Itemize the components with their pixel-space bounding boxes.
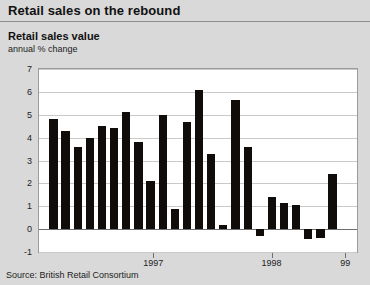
bar [304,229,312,239]
bar [159,115,167,229]
bar-series [39,69,357,252]
y-axis: -101234567 [4,68,34,253]
source-note: Source: British Retail Consortium [6,270,139,280]
bar [110,128,118,229]
bar [122,112,130,229]
bar [244,147,252,229]
bar [292,205,300,229]
bar [98,126,106,229]
bar [328,174,336,229]
chart-subtitle: annual % change [8,44,78,54]
bar [86,138,94,230]
bar [231,100,239,229]
chart-title: Retail sales value [8,30,100,42]
bar [171,209,179,230]
x-axis: 1997199899 [38,253,358,271]
y-tick-label: 1 [27,202,32,211]
bar [195,90,203,230]
bar [61,131,69,229]
bar [74,147,82,229]
bar [207,154,215,229]
title-divider [0,21,370,22]
y-tick-label: 7 [27,65,32,74]
x-tick-label: 1997 [143,258,163,268]
plot-area [38,68,358,253]
y-tick-label: 6 [27,87,32,96]
bar [49,119,57,229]
x-tick-label: 1998 [262,258,282,268]
bar [183,122,191,230]
y-tick-label: 2 [27,179,32,188]
x-tick-label: 99 [340,258,350,268]
y-tick-label: 4 [27,133,32,142]
y-tick-label: -1 [24,248,32,257]
bar [268,197,276,229]
y-tick-label: 0 [27,225,32,234]
bar [256,229,264,236]
y-tick-label: 3 [27,156,32,165]
bar [134,142,142,229]
bar [219,225,227,230]
page-title: Retail sales on the rebound [8,3,180,18]
y-tick-label: 5 [27,110,32,119]
bar [280,203,288,229]
bar [146,181,154,229]
bar [316,229,324,238]
